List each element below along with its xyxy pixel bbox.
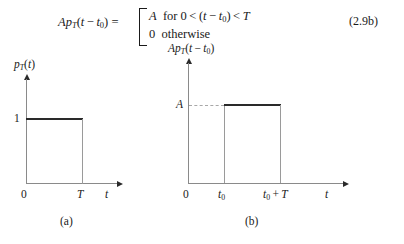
case-first-less-than-2: <: [233, 9, 240, 23]
plot-b-caption: (b): [245, 215, 258, 227]
plot-b-pulse-left-edge: [224, 105, 225, 183]
plot-b-y-tick-label-A: A: [176, 98, 183, 110]
case-first-minus: −: [209, 9, 216, 23]
equation-number: (2.9b): [349, 14, 378, 29]
plot-a-x-axis-arrowhead-icon: [117, 181, 123, 187]
equation-lhs-close-paren: ): [104, 15, 108, 29]
plot-a-y-axis-title: pT(t): [14, 58, 35, 72]
plot-a-y-tick-label-1: 1: [14, 112, 20, 124]
plot-b-tick-t0-subscript: 0: [221, 193, 225, 202]
equation-lhs-amplitude: A: [58, 15, 66, 29]
plot-b-x-tick-label-t0: t0: [218, 188, 225, 202]
plot-b-tick-end-subscript: 0: [266, 193, 270, 202]
plot-b-x-tick-label-origin: 0: [183, 188, 189, 200]
plot-b-pulse-top-edge: [224, 104, 281, 106]
plot-b-pulse-right-edge: [280, 105, 281, 183]
plot-a-caption: (a): [60, 215, 73, 227]
equation-lhs-time-var: t: [81, 15, 84, 29]
plot-b-y-axis-title: ApT(t − t0): [168, 42, 214, 56]
plot-b-y-title-amplitude: A: [168, 42, 175, 54]
plot-b-tick-end-width: T: [281, 188, 287, 200]
plot-a-x-tick-label-origin: 0: [21, 188, 27, 200]
plot-b-amplitude-guide-line: [189, 105, 224, 106]
plot-b-y-title-close-paren: ): [210, 42, 214, 54]
plot-b-x-axis: [188, 183, 344, 184]
plot-a-y-axis: [26, 79, 27, 184]
plot-b-x-axis-title: t: [325, 188, 328, 200]
case-first-less-than-1: <: [189, 9, 196, 23]
case-first-value: A: [149, 9, 157, 23]
plot-b-y-title-time-var: t: [189, 42, 192, 54]
plot-b-tick-end-plus: +: [272, 188, 279, 200]
plot-b-x-tick-label-t0-plus-T: t0 + T: [263, 188, 288, 202]
plot-b-y-axis: [188, 63, 189, 183]
plot-a-pulse-top-edge: [26, 118, 83, 120]
equation-case-bracket-icon: [139, 8, 147, 46]
plot-a-x-axis-title: t: [105, 188, 108, 200]
case-first-lower-bound: 0: [181, 9, 187, 23]
equation-case-first: A for 0 < (t − t0) < T: [149, 9, 250, 24]
case-first-time-var: t: [203, 9, 206, 23]
case-first-keyword: for: [163, 9, 178, 23]
plot-a-y-title-close-paren: ): [31, 58, 35, 70]
plot-a-x-axis: [26, 183, 118, 184]
case-first-close-paren: ): [226, 9, 230, 23]
equation-left-hand-side: ApT(t − t0) =: [58, 15, 118, 30]
case-first-upper-bound: T: [243, 9, 250, 23]
plot-b: ApT(t − t0) A 0 t0 t0 + T t (b): [150, 38, 404, 244]
equation-lhs-minus: −: [87, 15, 94, 29]
plot-a-pulse-right-edge: [82, 119, 83, 184]
plot-a-x-tick-label-T: T: [77, 188, 83, 200]
equation-equals-sign: =: [111, 15, 118, 29]
plot-b-y-title-minus: −: [195, 42, 202, 54]
plot-b-x-axis-arrowhead-icon: [343, 181, 349, 187]
